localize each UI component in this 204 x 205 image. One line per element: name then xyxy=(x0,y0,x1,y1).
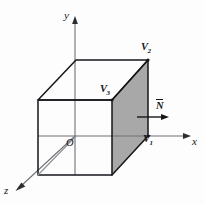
z-axis-label: z xyxy=(4,185,8,196)
vertex-label-v3-letter: V xyxy=(100,83,107,94)
vertex-label-v2: V2 xyxy=(141,42,152,53)
vertex-dot-v3 xyxy=(110,98,113,101)
origin-label: O xyxy=(66,138,74,149)
vertex-label-v1: V1 xyxy=(143,134,154,145)
vertex-label-v2-letter: V xyxy=(141,41,148,52)
x-axis-label: x xyxy=(192,136,197,147)
vertex-dot-v2 xyxy=(146,58,149,61)
vertex-label-v3-index: 3 xyxy=(107,89,111,97)
normal-vector-label: N xyxy=(156,101,164,112)
y-axis xyxy=(72,16,78,175)
y-axis-label: y xyxy=(64,10,69,21)
vertex-label-v3: V3 xyxy=(100,84,111,95)
diagram-canvas xyxy=(0,0,204,205)
vertex-label-v1-index: 1 xyxy=(150,139,154,147)
cube-diagram-figure: y x z O V2 V3 V1 N xyxy=(0,0,204,205)
normal-vector-label-text: N xyxy=(156,101,164,112)
vertex-label-v1-letter: V xyxy=(143,133,150,144)
y-axis-arrowhead xyxy=(72,16,78,24)
x-axis-arrowhead xyxy=(183,133,191,139)
normal-arrowhead xyxy=(161,114,169,120)
vertex-label-v2-index: 2 xyxy=(148,47,152,55)
